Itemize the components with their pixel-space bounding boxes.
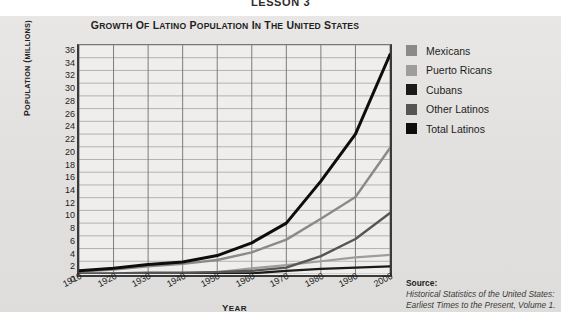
y-tick-label: 20 [53,148,75,157]
y-tick-label: 28 [53,97,75,106]
legend-item: Puerto Ricans [406,61,556,81]
legend-item: Mexicans [406,41,556,61]
y-tick-label: 26 [53,110,75,119]
y-tick-label: 10 [53,211,75,220]
plot-area [77,44,392,277]
legend-label: Puerto Ricans [426,64,492,76]
y-tick-label: 36 [53,46,75,55]
y-tick-label: 18 [53,161,75,170]
legend-label: Total Latinos [426,123,485,135]
legend-item: Cubans [406,80,556,100]
y-tick-label: 24 [53,122,75,131]
y-tick-label: 8 [53,224,75,233]
y-tick-label: 34 [53,59,75,68]
legend-swatch-icon [406,45,417,56]
legend-label: Other Latinos [426,103,489,115]
source-text: Historical Statistics of the United Stat… [406,289,558,312]
y-tick-label: 16 [53,173,75,182]
legend-swatch-icon [406,65,417,76]
legend-label: Cubans [426,84,462,96]
source-title: Source: [406,278,558,288]
chart-legend: MexicansPuerto RicansCubansOther Latinos… [406,41,556,139]
chart-canvas [79,45,390,274]
chart-title: GROWTH OF LATINO POPULATION IN THE UNITE… [60,19,390,31]
legend-swatch-icon [406,84,417,95]
y-tick-label: 4 [53,250,75,259]
y-tick-label: 30 [53,84,75,93]
legend-swatch-icon [406,123,417,134]
legend-item: Other Latinos [406,100,556,120]
legend-label: Mexicans [426,45,470,57]
y-tick-label: 22 [53,135,75,144]
legend-item: Total Latinos [406,119,556,139]
y-axis-tick-labels: 363432302826242220181614121086420 [52,44,75,277]
y-axis-title: POPULATION (MILLIONS) [22,0,32,116]
lesson-header: LESSON 3 [0,0,561,10]
y-tick-label: 2 [53,262,75,271]
y-tick-label: 32 [53,71,75,80]
figure-panel: GROWTH OF LATINO POPULATION IN THE UNITE… [0,16,561,312]
x-axis-title: YEAR [77,302,392,313]
figure-root: LESSON 3 GROWTH OF LATINO POPULATION IN … [0,0,561,327]
source-block: Source: Historical Statistics of the Uni… [406,278,558,312]
y-tick-label: 12 [53,199,75,208]
y-tick-label: 14 [53,186,75,195]
legend-swatch-icon [406,104,417,115]
y-tick-label: 6 [53,237,75,246]
